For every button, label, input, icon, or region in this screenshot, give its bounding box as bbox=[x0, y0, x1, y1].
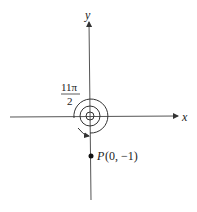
x-axis-label: x bbox=[181, 110, 188, 124]
unit-angle-diagram: x y 11π 2 P (0, −1) bbox=[0, 0, 197, 212]
point-p-name: P bbox=[96, 149, 105, 163]
rotation-spiral bbox=[74, 99, 108, 136]
angle-label-numerator: 11π bbox=[61, 81, 78, 93]
y-axis-label: y bbox=[84, 8, 91, 22]
angle-label-denominator: 2 bbox=[67, 95, 73, 107]
point-p-marker bbox=[89, 154, 94, 159]
y-axis bbox=[89, 22, 91, 200]
point-p-coords: (0, −1) bbox=[105, 149, 138, 163]
